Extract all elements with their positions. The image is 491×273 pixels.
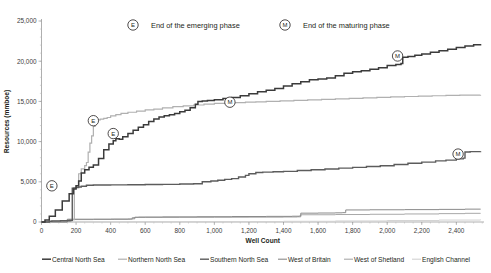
phase-marker-m: M <box>225 97 235 107</box>
phase-key-marker-letter: E <box>131 22 135 28</box>
legend-label: English Channel <box>422 256 471 264</box>
series-line-central-north-sea <box>42 44 481 222</box>
phase-key-item: EEnd of the emerging phase <box>128 20 240 30</box>
x-axis-title: Well Count <box>246 237 281 244</box>
phase-key-label: End of the emerging phase <box>151 21 240 30</box>
x-tick-label: 600 <box>140 227 151 234</box>
x-tick-label: 1,200 <box>241 227 257 234</box>
x-tick-label: 0 <box>40 227 44 234</box>
series-line-northern-north-sea <box>42 95 481 222</box>
y-tick-label: 5,000 <box>21 178 37 185</box>
x-tick-label: 2,400 <box>448 227 464 234</box>
phase-marker-letter: M <box>456 151 461 157</box>
series-line-west-of-britain <box>42 209 481 222</box>
y-tick-label: 15,000 <box>17 98 37 105</box>
phase-marker-m: M <box>392 51 402 61</box>
x-tick-label: 2,000 <box>379 227 395 234</box>
chart-container: 05,00010,00015,00020,00025,0000200400600… <box>0 0 491 273</box>
legend-label: Central North Sea <box>52 256 105 263</box>
y-tick-label: 25,000 <box>17 17 37 24</box>
legend-label: Southern North Sea <box>210 256 269 263</box>
series-group <box>42 44 481 222</box>
y-tick-label: 0 <box>33 218 37 225</box>
phase-key-marker-letter: M <box>283 22 288 28</box>
phase-marker-letter: E <box>91 118 95 124</box>
phase-key-item: MEnd of the maturing phase <box>280 20 390 30</box>
y-axis-ticks: 05,00010,00015,00020,00025,000 <box>17 17 42 225</box>
phase-marker-letter: M <box>227 99 232 105</box>
y-tick-label: 10,000 <box>17 138 37 145</box>
x-tick-label: 2,200 <box>414 227 430 234</box>
phase-marker-letter: E <box>50 183 54 189</box>
phase-marker-e: E <box>88 115 98 125</box>
legend-item-west-of-britain[interactable]: West of Britain <box>278 256 331 263</box>
x-tick-label: 200 <box>71 227 82 234</box>
phase-marker-letter: M <box>395 53 400 59</box>
phase-markers: EEEMMM <box>47 51 464 191</box>
phase-key-label: End of the maturing phase <box>303 21 390 30</box>
x-tick-label: 1,000 <box>206 227 222 234</box>
legend-item-central-north-sea[interactable]: Central North Sea <box>42 256 105 263</box>
legend-label: Northern North Sea <box>128 256 186 263</box>
legend-item-west-of-shetland[interactable]: West of Shetland <box>344 256 404 263</box>
x-tick-label: 400 <box>105 227 116 234</box>
phase-marker-e: E <box>47 181 57 191</box>
phase-marker-e: E <box>108 128 118 138</box>
x-tick-label: 1,800 <box>345 227 361 234</box>
axes <box>42 19 485 222</box>
phase-key: EEnd of the emerging phaseMEnd of the ma… <box>128 20 390 30</box>
legend-item-english-channel[interactable]: English Channel <box>412 256 471 264</box>
y-axis-title: Resources (mmboe) <box>3 90 11 153</box>
resources-vs-well-count-chart: 05,00010,00015,00020,00025,0000200400600… <box>0 0 491 273</box>
y-tick-label: 20,000 <box>17 58 37 65</box>
legend: Central North SeaNorthern North SeaSouth… <box>42 256 471 264</box>
x-tick-label: 1,400 <box>275 227 291 234</box>
legend-label: West of Shetland <box>354 256 404 263</box>
series-line-southern-north-sea <box>42 151 481 222</box>
legend-item-southern-north-sea[interactable]: Southern North Sea <box>200 256 269 263</box>
phase-marker-letter: E <box>111 131 115 137</box>
phase-marker-m: M <box>453 149 463 159</box>
x-tick-label: 1,600 <box>310 227 326 234</box>
legend-item-northern-north-sea[interactable]: Northern North Sea <box>118 256 186 263</box>
x-axis-ticks: 02004006008001,0001,2001,4001,6001,8002,… <box>40 222 465 234</box>
legend-label: West of Britain <box>288 256 331 263</box>
x-tick-label: 800 <box>174 227 185 234</box>
